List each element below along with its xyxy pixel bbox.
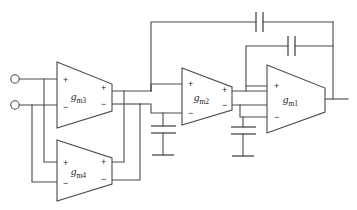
input-positive-terminal[interactable] <box>11 75 19 83</box>
amplifier-gm4-out-minus: − <box>101 174 106 184</box>
amplifier-gm1[interactable]: + − gm1 <box>267 65 325 133</box>
input-negative-terminal[interactable] <box>11 101 19 109</box>
wire-to-gm2-plus <box>151 84 182 91</box>
wire-gm3outminus-to-gm4outminus <box>112 104 140 180</box>
amplifier-gm1-in-minus: − <box>274 112 279 122</box>
wire-to-gm2-minus <box>140 104 182 113</box>
amplifier-gm2-in-plus: + <box>188 79 193 89</box>
amplifier-gm3-out-plus: + <box>101 83 106 93</box>
amplifier-gm2[interactable]: + − + − gm2 <box>182 68 232 125</box>
inner-miller-capacitor <box>288 36 295 56</box>
amplifier-gm3-in-minus: − <box>63 102 68 112</box>
amplifier-gm4-in-minus: − <box>63 178 68 188</box>
amplifier-gm1-in-plus: + <box>274 81 279 91</box>
amplifier-gm4-out-plus: + <box>101 157 106 167</box>
circuit-diagram: + − + − gm3 + − + − gm4 + − + − gm2 + <box>0 0 357 210</box>
amplifier-gm4-in-plus: + <box>63 158 68 168</box>
load-capacitor-stage1 <box>231 127 256 156</box>
input-terminals <box>11 75 19 109</box>
amplifier-gm3[interactable]: + − + − gm3 <box>57 62 112 128</box>
amplifier-gm2-in-minus: − <box>188 108 193 118</box>
wire-gm3outplus-to-gm4outplus <box>112 91 124 162</box>
load-capacitor-stage2 <box>151 126 176 155</box>
schematic-svg: + − + − gm3 + − + − gm4 + − + − gm2 + <box>0 0 357 210</box>
wire-to-gm1-plus <box>246 86 267 91</box>
amplifier-gm2-out-minus: − <box>222 100 227 110</box>
amplifier-gm3-out-minus: − <box>101 99 106 109</box>
amplifier-gm2-out-plus: + <box>222 85 227 95</box>
wire-input-plus-to-gm4 <box>44 79 57 162</box>
wire-to-gm1-minus <box>240 105 267 117</box>
outer-miller-capacitor <box>256 12 263 32</box>
amplifier-gm3-in-plus: + <box>63 75 68 85</box>
amplifier-gm4[interactable]: + − + − gm4 <box>57 140 112 201</box>
